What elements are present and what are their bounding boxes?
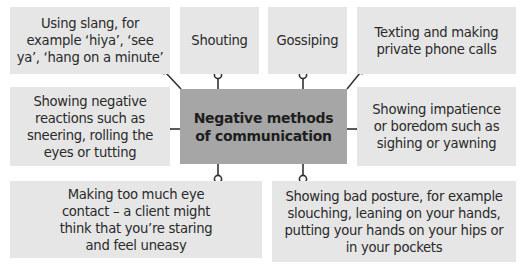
node-gossiping-label: Gossiping [277,32,339,49]
node-texting-label: Texting and making private phone calls [371,24,502,58]
node-posture: Showing bad posture, for example slouchi… [272,181,516,262]
node-slang-label: Using slang, for example ‘hiya’, ‘see ya… [14,15,166,66]
node-impatience: Showing impatience or boredom such as si… [357,87,516,166]
node-gossiping: Gossiping [268,7,347,74]
center-node-label: Negative methods of communication [188,109,339,145]
node-slang: Using slang, for example ‘hiya’, ‘see ya… [10,7,170,74]
node-texting: Texting and making private phone calls [357,7,516,74]
node-negative-reactions-label: Showing negative reactions such as sneer… [18,93,162,161]
node-impatience-label: Showing impatience or boredom such as si… [367,101,506,152]
node-shouting: Shouting [180,7,259,74]
center-node: Negative methods of communication [180,89,347,164]
node-eye-contact: Making too much eye contact – a client m… [10,181,262,258]
node-eye-contact-label: Making too much eye contact – a client m… [48,186,224,254]
node-negative-reactions: Showing negative reactions such as sneer… [10,87,170,166]
node-shouting-label: Shouting [191,32,247,49]
node-posture-label: Showing bad posture, for example slouchi… [278,188,510,256]
